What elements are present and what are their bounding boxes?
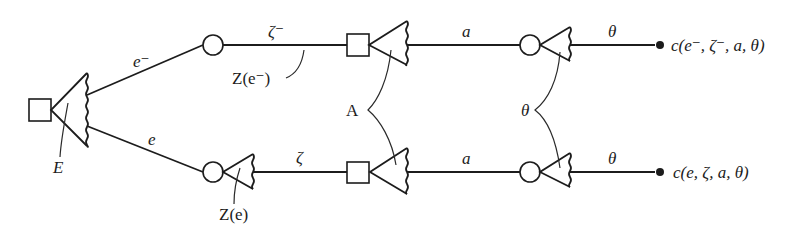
leader-line: [286, 50, 304, 78]
decision-square-icon: [347, 34, 369, 56]
act-upper-label: a: [462, 22, 471, 41]
fan-triangle-icon: [540, 153, 570, 187]
chance-circle-icon: [520, 162, 540, 182]
branch-upper-label: e⁻: [133, 52, 150, 71]
decision-group-label: A: [346, 101, 359, 120]
leader-line: [234, 168, 240, 204]
branch-lower-label: e: [148, 130, 156, 149]
fan-triangle-icon: [51, 73, 87, 146]
wavy-edge-icon: [406, 21, 408, 65]
act-lower-label: a: [462, 149, 471, 168]
decision-square-icon: [347, 162, 369, 183]
info-set-bracket: [535, 52, 560, 168]
fan-triangle-icon: [370, 148, 407, 194]
state-upper-label: θ: [608, 22, 616, 41]
outcome-lower-label: c(e, ζ, a, θ): [673, 163, 749, 182]
chance-circle-icon: [203, 35, 223, 55]
decision-square-icon: [29, 99, 51, 121]
zeta-upper-label: ζ⁻: [268, 22, 284, 41]
fan-triangle-icon: [223, 154, 253, 189]
chance-lower-label: Z(e): [219, 205, 248, 224]
leader-line: [60, 103, 68, 157]
wavy-edge-icon: [569, 153, 571, 187]
root-label: E: [52, 158, 64, 177]
chance-circle-icon: [203, 162, 223, 182]
wavy-edge-icon: [406, 148, 408, 194]
branch-lower-line: [87, 126, 203, 172]
fan-triangle-icon: [540, 27, 570, 61]
wavy-edge-icon: [86, 73, 88, 147]
zeta-lower-label: ζ: [296, 148, 304, 167]
state-group-label: θ: [521, 101, 529, 120]
chance-circle-icon: [520, 35, 540, 55]
outcome-upper-label: c(e⁻, ζ⁻, a, θ): [671, 36, 765, 55]
wavy-edge-icon: [569, 27, 571, 61]
root-decision-node: E: [29, 73, 88, 177]
outcome-dot-icon: [656, 168, 664, 176]
fan-triangle-icon: [369, 21, 407, 65]
state-lower-label: θ: [608, 149, 616, 168]
info-set-bracket: [368, 50, 396, 165]
chance-upper-label: Z(e⁻): [232, 69, 270, 88]
decision-tree-diagram: E e⁻ e ζ⁻ Z(e⁻) Z(e) ζ a a A θ θ θ c(e⁻,…: [0, 0, 807, 234]
outcome-dot-icon: [656, 41, 664, 49]
